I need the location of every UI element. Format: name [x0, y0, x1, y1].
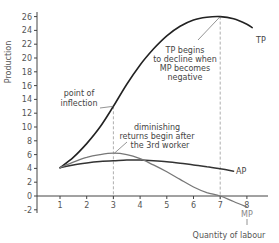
- y-tick-label: 22: [22, 40, 32, 49]
- tp-label: TP: [255, 36, 266, 45]
- annotation-decline-line3: MP becomes: [160, 64, 210, 73]
- axis-ticks: -20246810121416182022242612345678: [22, 13, 250, 215]
- x-tick-label: 1: [57, 201, 62, 210]
- decline-leader-line: [198, 17, 220, 40]
- x-tick-label: 5: [164, 201, 169, 210]
- annotation-decline-line2: to decline when: [153, 55, 217, 64]
- y-tick-label: 0: [27, 192, 32, 201]
- y-tick-label: 14: [22, 95, 32, 104]
- x-tick-label: 7: [218, 201, 223, 210]
- axes: [37, 12, 268, 213]
- annotation-inflection-line1: point of: [64, 89, 95, 98]
- y-tick-label: 24: [22, 26, 32, 35]
- annotation-decline-line4: negative: [168, 73, 203, 82]
- x-tick-label: 4: [138, 201, 143, 210]
- y-tick-label: 4: [27, 164, 32, 173]
- x-tick-label: 8: [244, 201, 249, 210]
- y-tick-label: 6: [27, 151, 32, 160]
- y-tick-label: 20: [22, 54, 32, 63]
- annotation-decline-line1: TP begins: [165, 46, 205, 55]
- annotation-diminishing-line3: the 3rd worker: [131, 141, 191, 150]
- inflection-leader-line: [100, 106, 113, 108]
- x-tick-label: 6: [191, 201, 196, 210]
- y-tick-label: 26: [22, 13, 32, 22]
- mp-label: MP: [241, 210, 253, 219]
- x-axis-title: Quantity of labour: [193, 231, 267, 240]
- y-axis-title: Production: [4, 41, 13, 84]
- annotation-inflection-line2: inflection: [61, 99, 98, 108]
- y-tick-label: 16: [22, 82, 32, 91]
- y-tick-label: 8: [27, 137, 32, 146]
- diminishing-leader-line: [114, 142, 127, 153]
- y-tick-label: -2: [24, 206, 32, 215]
- y-tick-label: 10: [22, 123, 32, 132]
- y-tick-label: 12: [22, 109, 32, 118]
- ap-label: AP: [236, 167, 246, 176]
- x-tick-label: 3: [111, 201, 116, 210]
- series-curves: [60, 17, 252, 207]
- annotation-diminishing-line2: returns begin after: [119, 132, 195, 141]
- y-tick-label: 18: [22, 68, 32, 77]
- annotation-diminishing-line1: diminishing: [134, 123, 180, 132]
- x-tick-label: 2: [84, 201, 89, 210]
- production-chart: -20246810121416182022242612345678 Produc…: [0, 0, 279, 243]
- y-tick-label: 2: [27, 178, 32, 187]
